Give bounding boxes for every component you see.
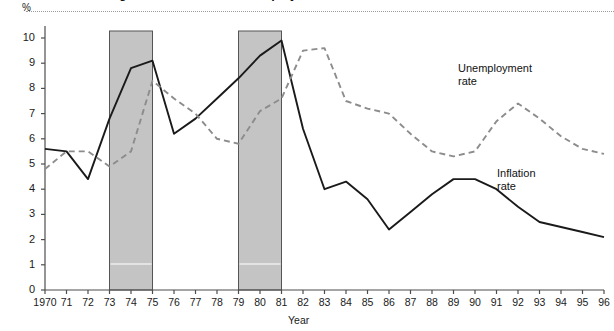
x-tick-label: 88 — [423, 296, 441, 308]
x-tick-label: 96 — [595, 296, 613, 308]
x-tick-label: 87 — [402, 296, 420, 308]
x-tick-label: 93 — [531, 296, 549, 308]
x-tick-label: 92 — [509, 296, 527, 308]
y-tick-label: 8 — [13, 81, 35, 93]
y-tick-label: 2 — [13, 233, 35, 245]
x-tick-label: 74 — [122, 296, 140, 308]
series-label-inflation-line1: Inflation — [497, 167, 536, 180]
series-label-inflation-line2: rate — [497, 180, 536, 193]
series-label-inflation: Inflation rate — [497, 167, 536, 193]
x-tick-label: 82 — [294, 296, 312, 308]
y-tick-label: 4 — [13, 182, 35, 194]
x-tick-label: 77 — [187, 296, 205, 308]
y-tick-label: 5 — [13, 157, 35, 169]
y-tick-label: 6 — [13, 132, 35, 144]
x-tick-label: 94 — [552, 296, 570, 308]
x-tick-label: 86 — [380, 296, 398, 308]
x-tick-label: 72 — [79, 296, 97, 308]
y-tick-label: 1 — [13, 258, 35, 270]
y-tick-label: 9 — [13, 56, 35, 68]
chart-figure: Figure 1 Inflation and unemployment rate… — [0, 0, 614, 331]
y-tick-label: 0 — [13, 283, 35, 295]
x-tick-label: 71 — [58, 296, 76, 308]
x-tick-label: 91 — [488, 296, 506, 308]
series-label-unemployment-line2: rate — [458, 75, 532, 88]
y-tick-label: 3 — [13, 207, 35, 219]
x-tick-label: 76 — [165, 296, 183, 308]
x-tick-label: 73 — [101, 296, 119, 308]
x-tick-label: 81 — [273, 296, 291, 308]
x-tick-label: 79 — [230, 296, 248, 308]
series-label-unemployment-line1: Unemployment — [458, 62, 532, 75]
x-axis-title: Year — [288, 314, 309, 326]
x-tick-label: 84 — [337, 296, 355, 308]
plot-area — [0, 0, 614, 331]
x-tick-label: 80 — [251, 296, 269, 308]
y-tick-label: 7 — [13, 107, 35, 119]
x-tick-label: 89 — [445, 296, 463, 308]
recession-band-2 — [239, 31, 282, 290]
x-tick-label: 83 — [316, 296, 334, 308]
x-tick-label: 90 — [466, 296, 484, 308]
y-tick-label: 10 — [13, 31, 35, 43]
recession-bands — [110, 31, 282, 290]
x-tick-label: 75 — [144, 296, 162, 308]
x-tick-label: 85 — [359, 296, 377, 308]
x-tick-label: 95 — [574, 296, 592, 308]
x-tick-label: 78 — [208, 296, 226, 308]
series-label-unemployment: Unemployment rate — [458, 62, 532, 88]
